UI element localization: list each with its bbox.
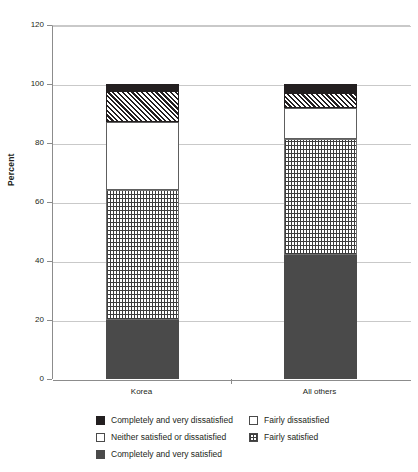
diagonal-hatch-square-icon: [249, 416, 258, 425]
y-axis-title: Percent: [6, 153, 16, 186]
legend-item-label: Completely and very satisfied: [111, 450, 222, 459]
legend-column-right: Fairly dissatisfiedFairly satisfied: [249, 412, 379, 446]
bar-segment: [106, 91, 179, 122]
bar-segment: [284, 255, 357, 379]
y-axis-tick-label: 0: [4, 375, 44, 383]
bar-segment: [284, 84, 357, 93]
bar-segment: [284, 139, 357, 256]
legend-item[interactable]: Fairly dissatisfied: [249, 412, 379, 428]
legend-item[interactable]: Completely and very satisfied: [96, 446, 256, 462]
y-axis-tick-label: 100: [4, 80, 44, 88]
legend-item-label: Fairly satisfied: [264, 433, 318, 442]
y-axis-tick-label: 20: [4, 316, 44, 324]
x-axis-tick-label: Korea: [92, 388, 192, 396]
y-axis-tick-label: 40: [4, 257, 44, 265]
legend-item[interactable]: Completely and very dissatisfied: [96, 412, 256, 428]
gridline: [53, 380, 411, 381]
x-axis-tick-mark: [231, 379, 232, 384]
plot-area: [52, 25, 410, 379]
bar-korea: [106, 25, 179, 379]
legend-column-left: Completely and very dissatisfiedNeither …: [96, 412, 256, 463]
bar-segment: [106, 84, 179, 91]
y-axis-tick-mark: [47, 379, 52, 380]
y-axis-tick-label: 60: [4, 198, 44, 206]
bar-segment: [284, 108, 357, 139]
stacked-bar-chart: Percent 120100806040200 KoreaAll others …: [0, 0, 418, 472]
legend-item[interactable]: Fairly satisfied: [249, 429, 379, 445]
white-square-icon: [96, 433, 105, 442]
legend-item[interactable]: Neither satisfied or dissatisfied: [96, 429, 256, 445]
y-axis-tick-label: 80: [4, 139, 44, 147]
bar-segment: [106, 320, 179, 379]
legend-item-label: Fairly dissatisfied: [264, 416, 329, 425]
legend-item-label: Completely and very dissatisfied: [111, 416, 233, 425]
bar-segment: [106, 190, 179, 320]
y-axis-tick-label: 120: [4, 21, 44, 29]
x-axis-tick-label: All others: [270, 388, 370, 396]
legend-item-label: Neither satisfied or dissatisfied: [111, 433, 226, 442]
bar-segment: [106, 122, 179, 190]
bar-segment: [284, 93, 357, 108]
black-square-icon: [96, 416, 105, 425]
bar-all-others: [284, 25, 357, 379]
dotted-square-icon: [249, 433, 258, 442]
dark-grey-square-icon: [96, 450, 105, 459]
